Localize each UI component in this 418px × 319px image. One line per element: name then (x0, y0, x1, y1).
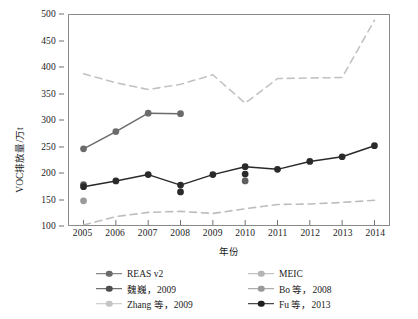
y-tick-mark (59, 120, 64, 121)
legend-label: MEIC (279, 269, 303, 279)
y-axis-ticks: 100150200250300350400450500 (0, 0, 68, 226)
y-axis-title: VOC排放量/万t (12, 95, 26, 225)
legend-swatch-icon (248, 269, 274, 279)
y-tick-label: 250 (41, 142, 56, 152)
data-point (145, 171, 152, 178)
chart-legend: REAS v2MEIC魏巍，2009Bo 等，2008Zhang 等，2009F… (96, 266, 376, 312)
y-tick-mark (59, 14, 64, 15)
x-tick-label: 2014 (365, 228, 385, 238)
x-tick-label: 2011 (268, 228, 287, 238)
legend-swatch-icon (96, 299, 122, 309)
plot-canvas (69, 15, 389, 225)
data-point (242, 171, 249, 178)
series-line-4 (84, 200, 375, 225)
y-tick-mark (59, 146, 64, 147)
voc-emissions-line-chart: 100150200250300350400450500 VOC排放量/万t 20… (0, 0, 418, 319)
legend-swatch-icon (248, 284, 274, 294)
plot-area (68, 14, 390, 226)
x-tick-label: 2012 (300, 228, 320, 238)
x-tick-label: 2007 (138, 228, 158, 238)
x-axis-ticks: 2005200620072008200920102011201220132014 (68, 228, 390, 244)
data-point (112, 128, 119, 135)
y-tick-mark (59, 67, 64, 68)
data-point (177, 110, 184, 117)
series-line-5 (84, 146, 375, 187)
x-tick-label: 2010 (235, 228, 255, 238)
data-point (80, 183, 87, 190)
legend-swatch-icon (96, 269, 122, 279)
legend-label: Zhang 等，2009 (127, 297, 193, 311)
legend-label: Bo 等，2008 (279, 282, 331, 296)
y-tick-label: 400 (41, 62, 56, 72)
x-tick-label: 2005 (73, 228, 93, 238)
y-tick-mark (59, 199, 64, 200)
legend-item[interactable]: Bo 等，2008 (248, 281, 376, 296)
data-point (339, 153, 346, 160)
y-tick-label: 350 (41, 89, 56, 99)
data-point (80, 146, 87, 153)
legend-label: 魏巍，2009 (127, 282, 176, 296)
y-tick-label: 200 (41, 168, 56, 178)
legend-label: Fu 等，2013 (279, 297, 330, 311)
data-point (177, 189, 184, 196)
legend-label: REAS v2 (127, 269, 163, 279)
data-point (177, 182, 184, 189)
x-tick-label: 2009 (203, 228, 223, 238)
y-tick-label: 300 (41, 115, 56, 125)
data-point (145, 110, 152, 117)
data-point (371, 142, 378, 149)
data-point (209, 171, 216, 178)
y-tick-mark (59, 40, 64, 41)
data-point (242, 163, 249, 170)
legend-item[interactable]: 魏巍，2009 (96, 281, 224, 296)
y-tick-label: 100 (41, 221, 56, 231)
legend-item[interactable]: Fu 等，2013 (248, 296, 376, 311)
y-tick-mark (59, 226, 64, 227)
x-tick-label: 2006 (105, 228, 125, 238)
y-tick-label: 150 (41, 195, 56, 205)
data-point (306, 158, 313, 165)
legend-item[interactable]: MEIC (248, 266, 376, 281)
y-tick-label: 450 (41, 36, 56, 46)
legend-item[interactable]: Zhang 等，2009 (96, 296, 224, 311)
series-line-1 (84, 20, 375, 103)
y-tick-mark (59, 93, 64, 94)
data-point (112, 178, 119, 185)
y-tick-mark (59, 173, 64, 174)
x-tick-label: 2008 (170, 228, 190, 238)
data-point (242, 178, 249, 185)
legend-item[interactable]: REAS v2 (96, 266, 224, 281)
x-tick-label: 2013 (333, 228, 353, 238)
legend-swatch-icon (96, 284, 122, 294)
data-point (80, 197, 87, 204)
series-line-0 (84, 113, 181, 149)
legend-swatch-icon (248, 299, 274, 309)
x-axis-title: 年份 (68, 244, 390, 258)
y-tick-label: 500 (41, 9, 56, 19)
data-point (274, 166, 281, 173)
